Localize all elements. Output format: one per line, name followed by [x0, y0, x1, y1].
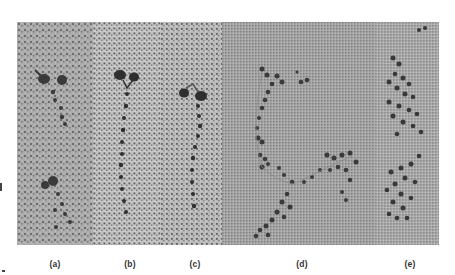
panel-b-image [93, 22, 160, 245]
margin-dot-mark [2, 270, 5, 272]
panel-b [93, 22, 160, 245]
panel-e-image [375, 22, 439, 245]
micrograph-figure [17, 22, 439, 245]
panel-c-image [160, 22, 222, 245]
panel-label-d: (d) [296, 259, 307, 269]
panel-a [17, 22, 93, 245]
panel-c [160, 22, 222, 245]
panel-a-image [17, 22, 93, 245]
panel-e [375, 22, 439, 245]
panel-d-image [222, 22, 375, 245]
panel-label-b: (b) [124, 259, 135, 269]
panel-label-c: (c) [190, 259, 201, 269]
panel-label-e: (e) [405, 259, 416, 269]
margin-tick-mark [0, 183, 2, 191]
panel-label-a: (a) [50, 259, 61, 269]
panel-d [222, 22, 375, 245]
